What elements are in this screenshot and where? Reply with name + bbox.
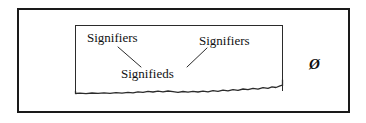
label-signifiers-left: Signifiers: [87, 31, 138, 45]
label-signifieds: Signifieds: [121, 67, 174, 81]
empty-set-symbol: Ø: [309, 56, 320, 73]
label-signifiers-right: Signifiers: [199, 34, 250, 48]
semiotics-diagram: Signifiers Signifiers Signifieds Ø: [0, 0, 366, 123]
